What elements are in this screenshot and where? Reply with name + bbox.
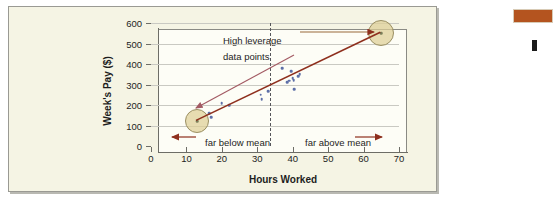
x-tick-label: 20	[217, 153, 228, 164]
y-tick-label: 100	[112, 120, 142, 131]
data-point	[210, 116, 213, 119]
margin-color-rule	[513, 9, 553, 23]
x-tick	[151, 147, 152, 152]
label-far-below-mean: far below mean	[205, 137, 270, 148]
x-tick-label: 40	[287, 153, 298, 164]
data-point	[281, 67, 284, 70]
y-tick-label: 500	[112, 38, 142, 49]
high-leverage-point	[380, 32, 383, 35]
x-tick	[257, 147, 258, 152]
data-point	[293, 88, 296, 91]
x-tick-label: 0	[148, 153, 153, 164]
data-point	[228, 104, 231, 107]
mean-reference-line	[270, 23, 271, 146]
figure-panel: Week's Pay ($) Hours Worked 010020030040…	[8, 6, 437, 192]
gridline	[151, 105, 399, 106]
gridline	[151, 23, 399, 24]
y-tick-label: 200	[112, 100, 142, 111]
margin-text-mark	[532, 40, 537, 51]
y-tick-label: 0	[112, 141, 142, 152]
x-tick	[399, 147, 400, 152]
x-tick-label: 50	[323, 153, 334, 164]
x-tick-label: 10	[181, 153, 192, 164]
y-axis-title: Week's Pay ($)	[102, 56, 113, 125]
y-tick-label: 600	[112, 18, 142, 29]
label-far-above-mean: far above mean	[305, 137, 371, 148]
data-point	[260, 93, 263, 96]
data-point	[290, 70, 293, 73]
x-tick	[293, 147, 294, 152]
x-tick-label: 60	[358, 153, 369, 164]
x-tick	[364, 147, 365, 152]
data-point	[208, 112, 211, 115]
gridline	[151, 44, 399, 45]
data-point	[260, 98, 263, 101]
y-tick-label: 300	[112, 79, 142, 90]
gridline	[151, 85, 399, 86]
gridline	[151, 64, 399, 65]
data-point	[221, 102, 224, 105]
x-tick	[186, 147, 187, 152]
x-tick-label: 70	[394, 153, 405, 164]
x-tick-label: 30	[252, 153, 263, 164]
high-leverage-point	[196, 120, 199, 123]
data-point	[267, 90, 270, 93]
x-tick	[328, 147, 329, 152]
x-tick	[222, 147, 223, 152]
annotation-high-leverage-line2: data points	[223, 51, 269, 62]
data-point	[292, 79, 295, 82]
plot-area	[159, 29, 407, 152]
data-point	[299, 73, 302, 76]
x-axis-line	[158, 152, 408, 153]
y-tick-label: 400	[112, 59, 142, 70]
x-axis-title: Hours Worked	[249, 174, 317, 185]
data-point	[288, 80, 291, 83]
